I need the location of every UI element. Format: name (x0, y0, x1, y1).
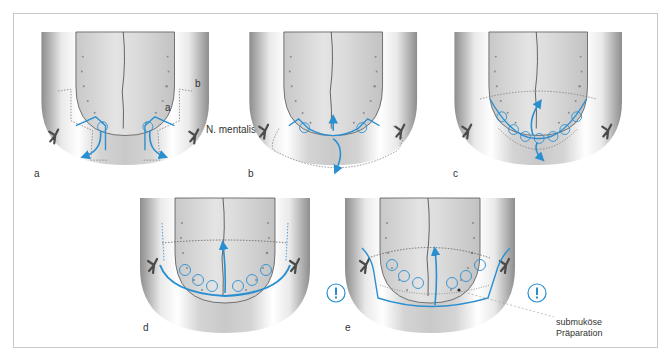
panel-a-inner-label-a: a (165, 102, 171, 113)
panel-a-illustration (40, 30, 240, 170)
panel-c-illustration (453, 30, 653, 170)
panel-d-illustration (140, 203, 340, 333)
panel-e-label: e (345, 322, 351, 333)
panel-a-inner-label-b: b (195, 78, 201, 89)
panel-e-illustration (340, 203, 550, 333)
annotation-line2: Präparation (556, 328, 603, 339)
panel-b-label: b (248, 168, 254, 179)
warning-icon (326, 283, 346, 303)
submucosal-annotation: submuköse Präparation (556, 317, 603, 339)
warning-icon (527, 283, 547, 303)
panel-d-label: d (143, 322, 149, 333)
panel-a-label: a (34, 168, 40, 179)
panel-c-label: c (453, 168, 458, 179)
panel-b-illustration (248, 30, 448, 180)
annotation-line1: submuköse (556, 317, 603, 328)
